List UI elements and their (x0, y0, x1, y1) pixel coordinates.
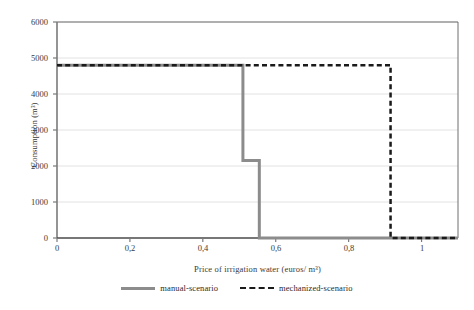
axis-ticks (53, 22, 422, 242)
y-tick-label-4000: 4000 (8, 89, 48, 99)
series-manual-scenario (57, 65, 458, 238)
data-series-layer (57, 65, 458, 238)
y-axis-title: Consumption (m³) (29, 55, 39, 215)
legend-label-manual-scenario: manual-scenario (160, 283, 218, 293)
x-axis-title: Price of irrigation water (euros/ m³) (57, 264, 458, 274)
x-tick-label-0-4: 0,4 (183, 243, 223, 253)
y-tick-label-1000: 1000 (8, 197, 48, 207)
x-tick-label-0: 0 (37, 243, 77, 253)
legend-line-dashed-icon (240, 283, 274, 293)
y-tick-label-2000: 2000 (8, 161, 48, 171)
legend-label-mechanized-scenario: mechanized-scenario (279, 283, 353, 293)
consumption-price-line-chart: Consumption (m³) 6000 5000 4000 3000 200… (0, 0, 474, 310)
y-tick-label-6000: 6000 (8, 17, 48, 27)
gridlines (57, 22, 458, 202)
legend-item-mechanized-scenario[interactable]: mechanized-scenario (240, 283, 353, 293)
series-mechanized-scenario (57, 65, 458, 238)
y-tick-label-5000: 5000 (8, 53, 48, 63)
x-tick-label-0-6: 0,6 (256, 243, 296, 253)
legend-item-manual-scenario[interactable]: manual-scenario (121, 283, 218, 293)
y-tick-label-3000: 3000 (8, 125, 48, 135)
legend-line-solid-icon (121, 283, 155, 293)
legend: manual-scenario mechanized-scenario (0, 283, 474, 293)
x-tick-label-0-2: 0,2 (110, 243, 150, 253)
x-tick-label-1: 1 (402, 243, 442, 253)
y-tick-label-0: 0 (8, 233, 48, 243)
x-tick-label-0-8: 0,8 (329, 243, 369, 253)
